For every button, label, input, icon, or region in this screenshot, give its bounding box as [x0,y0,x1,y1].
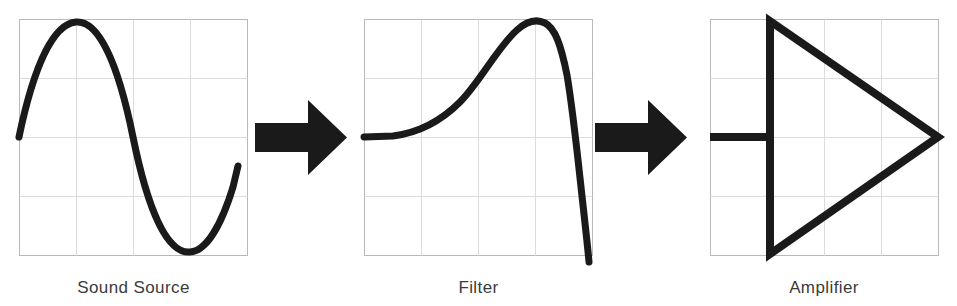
stage-filter: Filter [345,0,612,306]
arrow-1-shape [255,100,347,175]
stage-sound-source: Sound Source [0,0,267,306]
signal-chain-diagram: Sound Source Filter [0,0,957,306]
stage-caption-amplifier: Amplifier [691,278,957,298]
amplifier-triangle-symbol [691,0,957,266]
sine-wave-plot [0,0,267,266]
stage-caption-filter: Filter [345,278,612,298]
stage-amplifier: Amplifier [691,0,957,306]
right-arrow-icon [590,90,690,185]
stage-caption-sound-source: Sound Source [0,278,267,298]
right-arrow-icon [250,90,350,185]
resonant-filter-response-plot [345,0,612,266]
arrow-2-shape [595,100,687,175]
